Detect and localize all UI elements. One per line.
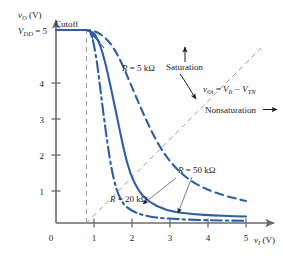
x-tick-label-3: 3 bbox=[168, 233, 173, 243]
r20k-leader-line bbox=[143, 178, 176, 204]
y-tick-label-3: 3 bbox=[40, 115, 45, 125]
x-tick-label-2: 2 bbox=[130, 233, 135, 243]
x-tick-label-4: 4 bbox=[206, 233, 211, 243]
vdd-label: VDD = 5 bbox=[18, 26, 47, 37]
curve-label-r20k: R = 20 kΩ bbox=[109, 194, 148, 204]
cutoff-annotation: Cutoff bbox=[55, 19, 104, 48]
curve-label-r5k: R = 5 kΩ bbox=[121, 63, 155, 73]
cutoff-label: Cutoff bbox=[55, 19, 78, 29]
y-tick-label-1: 1 bbox=[40, 187, 45, 197]
nonsaturation-label: Nonsaturation bbox=[205, 105, 256, 115]
x-ticks: 1 2 3 4 5 0 bbox=[49, 219, 249, 244]
transition-equation: vOt = VIt − VTN bbox=[203, 84, 256, 95]
x-axis-title: vI (V) bbox=[254, 235, 275, 246]
saturation-curved-leader bbox=[180, 74, 196, 99]
region-annotations: Saturation Nonsaturation vOt = VIt − VTN bbox=[166, 47, 277, 115]
y-ticks: 1 2 3 4 bbox=[40, 79, 61, 197]
curve-labels: R = 5 kΩ R = 20 kΩ R = 50 kΩ bbox=[109, 63, 216, 213]
x-tick-label-5: 5 bbox=[244, 233, 249, 243]
curves-group bbox=[56, 30, 246, 221]
figure-root: 1 2 3 4 1 2 3 4 5 0 vO (V) vI (V) VDD = … bbox=[0, 0, 283, 256]
axes-group bbox=[56, 20, 274, 223]
origin-label: 0 bbox=[49, 233, 54, 243]
curve-label-r50k: R = 50 kΩ bbox=[177, 165, 216, 175]
saturation-label: Saturation bbox=[166, 62, 203, 72]
y-axis-title: vO (V) bbox=[18, 10, 41, 21]
vtc-chart: 1 2 3 4 1 2 3 4 5 0 vO (V) vI (V) VDD = … bbox=[0, 0, 283, 256]
r50k-leader-line bbox=[178, 177, 192, 213]
curve-r5k bbox=[56, 30, 246, 201]
curve-r20k bbox=[56, 30, 246, 217]
y-tick-label-2: 2 bbox=[40, 151, 45, 161]
x-tick-label-1: 1 bbox=[92, 233, 97, 243]
y-tick-label-4: 4 bbox=[40, 79, 45, 89]
